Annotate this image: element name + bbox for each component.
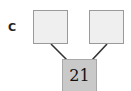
sum-box: 21 (62, 59, 97, 91)
edge-left-to-bottom (51, 44, 67, 60)
left-empty-box (33, 10, 68, 44)
edge-right-to-bottom (92, 44, 107, 60)
right-empty-box (89, 10, 124, 44)
